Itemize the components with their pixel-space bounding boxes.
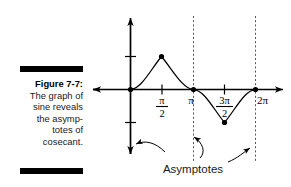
asymptotes-label: Asymptotes [163,163,223,175]
point-origin [128,87,133,92]
x-tick-label-pi: π [188,94,194,106]
x-tick-label-pi-over-2-numerator: π [159,95,165,106]
point-max-pi-over-2 [159,54,164,59]
point-zero-pi [191,87,196,92]
figure-page: Figure 7-7: The graph of sine reveals th… [0,0,291,187]
x-tick-label-3pi-over-2-denominator: 2 [222,108,227,119]
x-tick-label-3pi-over-2-numerator: 3π [219,95,230,106]
x-tick-label-pi-over-2-denominator: 2 [159,108,164,119]
asymptote-arrow-to-pi [194,137,203,158]
point-min-3pi-over-2 [222,120,227,125]
sine-graph: π 2 π 3π 2 2π Asymptotes [0,0,291,187]
x-tick-label-pi-over-2: π 2 [156,95,168,119]
asymptote-arrow-to-y-axis [136,142,165,152]
x-tick-label-2pi: 2π [257,94,269,106]
asymptote-arrow-to-2pi [228,148,250,162]
point-zero-2pi [253,87,258,92]
